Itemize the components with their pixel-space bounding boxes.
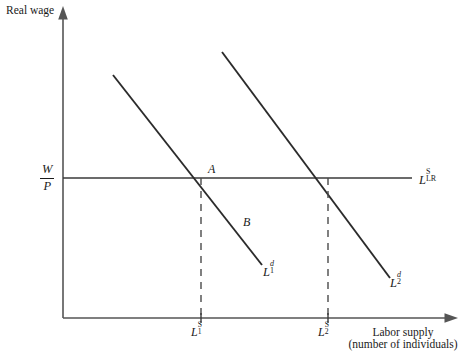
y-axis-title: Real wage — [6, 4, 54, 16]
labor-demand-curve-2 — [222, 52, 390, 278]
ls2-base: L — [318, 325, 325, 339]
x-axis — [63, 313, 458, 323]
ls1-base: L — [191, 325, 198, 339]
point-a-label: A — [208, 163, 215, 176]
ld2-base: L — [390, 276, 397, 290]
labor-demand-2-label: Ld2 — [390, 274, 405, 290]
x-axis-title: Labor supply (number of individuals) — [344, 326, 462, 351]
wage-denominator: P — [40, 179, 54, 194]
labor-demand-curve-1 — [113, 75, 262, 265]
lsupply-scripts: SLR — [426, 171, 434, 184]
x-tick-label-ls2: LS2 — [318, 324, 332, 339]
y-axis — [58, 6, 68, 318]
ld2-scripts: d2 — [397, 274, 405, 287]
labor-demand-1-label: Ld1 — [263, 263, 278, 279]
figure-canvas: Real wage W P LSLR Ld1 Ld2 A B LS1 LS2 L… — [0, 0, 464, 359]
ls1-subscript: 1 — [198, 328, 202, 336]
ls1-scripts: S1 — [198, 324, 205, 336]
ls2-scripts: S2 — [325, 324, 332, 336]
x-axis-title-line1: Labor supply — [344, 326, 462, 338]
ls2-subscript: 2 — [325, 328, 329, 336]
long-run-supply-label: LSLR — [419, 171, 434, 187]
real-wage-value-label: W P — [40, 163, 54, 193]
point-b-label: B — [243, 216, 250, 229]
ld1-scripts: d1 — [270, 263, 278, 276]
x-tick-label-ls1: LS1 — [191, 324, 205, 339]
diagram-svg — [0, 0, 464, 359]
lsupply-subscript: LR — [426, 175, 436, 184]
ld1-subscript: 1 — [270, 267, 274, 276]
ld2-subscript: 2 — [397, 278, 401, 287]
x-axis-title-line2: (number of individuals) — [344, 338, 462, 350]
lsupply-base: L — [419, 173, 426, 187]
ld1-base: L — [263, 265, 270, 279]
wage-numerator: W — [40, 163, 54, 179]
